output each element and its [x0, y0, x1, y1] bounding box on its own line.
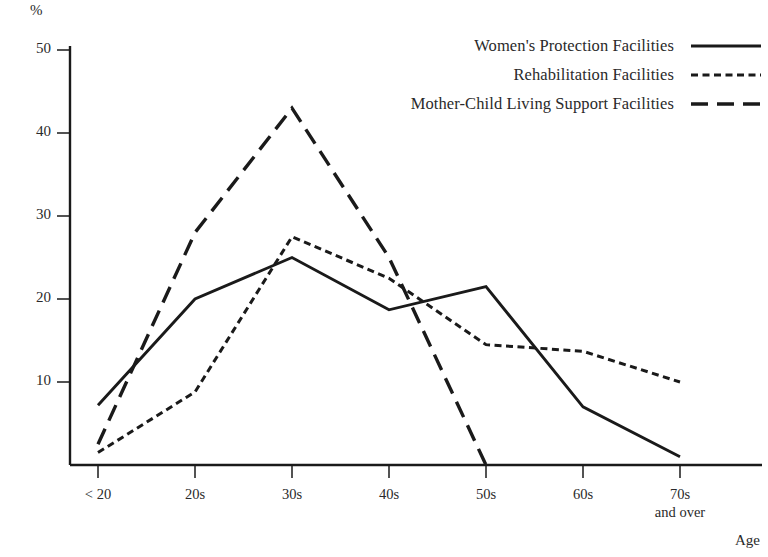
y-axis-tick-label: 10 [17, 372, 51, 389]
line-chart: % Age 5040302010 < 2020s30s40s50s60s70sa… [0, 0, 768, 557]
legend-item: Rehabilitation Facilities [513, 62, 762, 88]
legend-item: Women's Protection Facilities [474, 33, 762, 59]
legend-item-label: Rehabilitation Facilities [513, 65, 674, 85]
data-series-line [98, 258, 680, 457]
data-series-line [98, 108, 486, 465]
x-axis-tick-label: 70sand over [620, 486, 740, 521]
legend-line-sample [690, 68, 762, 82]
legend-item-label: Mother-Child Living Support Facilities [411, 94, 674, 114]
data-series-line [98, 237, 680, 453]
y-axis-tick-label: 40 [17, 123, 51, 140]
legend-item-label: Women's Protection Facilities [474, 36, 674, 56]
y-axis-tick-label: 20 [17, 289, 51, 306]
x-axis-title: Age [735, 532, 760, 549]
legend-line-sample [690, 39, 762, 53]
legend-line-sample [690, 97, 762, 111]
y-axis-tick-label: 50 [17, 40, 51, 57]
y-axis-unit-label: % [30, 2, 43, 19]
legend-item: Mother-Child Living Support Facilities [411, 91, 762, 117]
y-axis-tick-label: 30 [17, 206, 51, 223]
data-series-group [98, 108, 680, 465]
